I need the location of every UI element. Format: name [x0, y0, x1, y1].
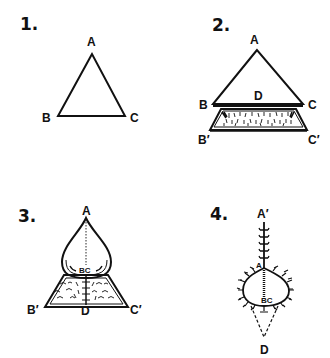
panel-number: 3. [18, 206, 36, 226]
hatch-texture [54, 282, 114, 300]
label-a: A [250, 33, 259, 47]
panel-number: 2. [212, 15, 230, 35]
label-b-prime: B′ [198, 133, 210, 147]
hatch-texture [222, 112, 294, 126]
label-d: D [260, 343, 269, 357]
panel-4: 4. A′ A BC D [210, 204, 294, 357]
label-bc: BC [79, 266, 91, 275]
label-c-prime: C′ [130, 303, 142, 317]
label-b: B [42, 111, 51, 125]
panel-1: 1. A B C [20, 14, 139, 125]
label-c: C [308, 98, 317, 112]
panel-3: 3. A BC B′ D C′ [18, 204, 142, 318]
label-d: D [254, 89, 263, 103]
panel-2: 2. A D B C B′ C′ [198, 15, 320, 147]
label-a: A [82, 204, 91, 218]
label-a: A [256, 261, 262, 270]
label-a-prime: A′ [257, 207, 269, 221]
triangle-abc [58, 54, 125, 116]
panel-number: 4. [210, 204, 228, 224]
label-b: B [199, 98, 208, 112]
label-c: C [130, 111, 139, 125]
flap-diagram: 1. A B C 2. A D B C B′ C′ 3. [0, 0, 330, 358]
label-d: D [81, 304, 90, 318]
label-a: A [87, 35, 96, 49]
label-b-prime: B′ [27, 303, 39, 317]
label-c-prime: C′ [308, 133, 320, 147]
label-bc: BC [261, 296, 273, 305]
panel-number: 1. [20, 14, 38, 34]
